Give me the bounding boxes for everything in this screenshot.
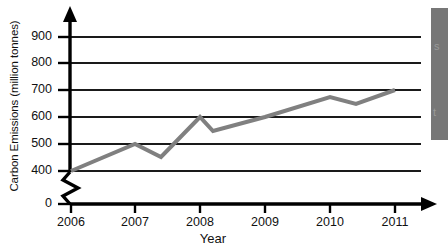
x-axis-title: Year: [200, 231, 226, 246]
y-axis-title: Carbon Emissions (million tonnes): [8, 6, 20, 206]
x-tick-label-2009: 2009: [251, 216, 279, 229]
side-panel: s t: [431, 8, 448, 140]
chart-container: 900 800 700 600 500 400 0 Carbon Emissio…: [0, 0, 448, 252]
x-tick-label-2008: 2008: [186, 216, 214, 229]
side-panel-text-fragment-2: t: [433, 106, 436, 118]
x-tick-label-2007: 2007: [121, 216, 149, 229]
y-axis-break-zigzag: [63, 172, 78, 204]
y-tick-label-500: 500: [31, 137, 52, 150]
data-series-line: [71, 90, 395, 171]
x-axis-title-wrap: Year: [0, 231, 448, 246]
y-tick-label-700: 700: [31, 83, 52, 96]
y-tick-label-400: 400: [31, 164, 52, 177]
y-tick-label-900: 900: [31, 30, 52, 43]
x-axis-arrow-icon: [421, 197, 437, 211]
y-axis-arrow-icon: [63, 6, 77, 22]
x-tick-label-2011: 2011: [382, 216, 409, 229]
x-tick-label-2006: 2006: [57, 216, 85, 229]
y-tick-label-0: 0: [45, 197, 52, 210]
side-panel-text-fragment-1: s: [434, 40, 440, 52]
y-tick-label-600: 600: [31, 110, 52, 123]
y-axis: [63, 6, 78, 204]
y-tick-label-800: 800: [31, 56, 52, 69]
x-axis: [70, 197, 437, 211]
x-tick-label-2010: 2010: [316, 216, 344, 229]
